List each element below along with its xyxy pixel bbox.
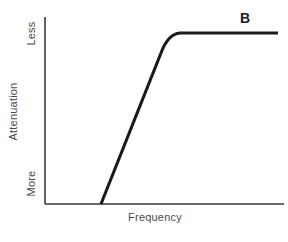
y-tick-label-less: Less	[26, 12, 37, 56]
chart-plot-area	[0, 0, 288, 242]
series-label-b: B	[233, 11, 257, 25]
y-axis-label: Attenuation	[8, 74, 19, 150]
y-tick-label-more: More	[26, 161, 37, 207]
attenuation-frequency-chart: Attenuation Less More Frequency B	[0, 0, 288, 242]
series-line-b	[101, 33, 278, 204]
x-axis-label: Frequency	[108, 212, 202, 223]
